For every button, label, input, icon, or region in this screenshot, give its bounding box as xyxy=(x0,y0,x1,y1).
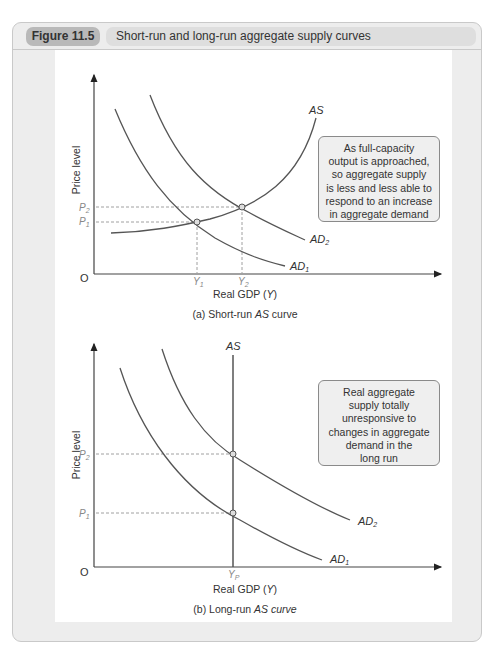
callout-line: in aggregate demand xyxy=(319,208,439,221)
y-axis-title: Price level xyxy=(70,146,82,194)
y1-label: Y1 xyxy=(193,276,204,288)
equilibrium-point-1 xyxy=(194,219,200,225)
equilibrium-point-2 xyxy=(230,451,236,457)
equilibrium-point-1 xyxy=(230,510,236,516)
origin-label: O xyxy=(80,272,89,284)
origin-label: O xyxy=(80,566,89,578)
p1-label: P1 xyxy=(79,508,90,520)
callout-line: demand in the xyxy=(319,439,439,452)
callout-line: output is approached, xyxy=(319,155,439,168)
callout-line: supply totally xyxy=(319,399,439,412)
panel-a-caption: (a) Short-run AS curve xyxy=(192,308,297,320)
yp-label: YP xyxy=(228,569,240,581)
callout-line: long run xyxy=(319,452,439,465)
ad1-curve xyxy=(120,368,322,560)
callout-line: respond to an increase xyxy=(319,195,439,208)
ad1-label: AD1 xyxy=(289,260,309,273)
callout-line: Real aggregate xyxy=(319,386,439,399)
x-axis-title: Real GDP (Y) xyxy=(213,288,277,300)
diagram-canvas: O P2 P1 Y1 Y2 AS AD1 AD2 Price level Rea… xyxy=(0,0,501,656)
ad1-label: AD1 xyxy=(329,553,349,566)
as-curve xyxy=(111,118,316,233)
panel-b-caption: (b) Long-run AS curve xyxy=(193,603,296,615)
ad2-label: AD2 xyxy=(309,233,329,246)
panel-b-callout: Real aggregate supply totally unresponsi… xyxy=(318,380,440,466)
ad1-curve xyxy=(115,109,285,266)
equilibrium-point-2 xyxy=(239,204,245,210)
ad2-curve xyxy=(150,95,305,240)
ad2-label: AD2 xyxy=(357,515,377,528)
callout-line: unresponsive to xyxy=(319,412,439,425)
callout-line: so aggregate supply xyxy=(319,168,439,181)
p1-label: P1 xyxy=(79,216,90,228)
callout-line: As full-capacity xyxy=(319,142,439,155)
y2-label: Y2 xyxy=(238,276,249,288)
y-axis-title: Price level xyxy=(70,431,82,479)
callout-line: changes in aggregate xyxy=(319,426,439,439)
callout-line: is less and less able to xyxy=(319,182,439,195)
panel-a-callout: As full-capacity output is approached, s… xyxy=(318,136,440,222)
as-label: AS xyxy=(308,104,324,116)
x-axis-title: Real GDP (Y) xyxy=(213,583,277,595)
p2-label: P2 xyxy=(79,202,90,214)
as-label: AS xyxy=(225,340,241,352)
